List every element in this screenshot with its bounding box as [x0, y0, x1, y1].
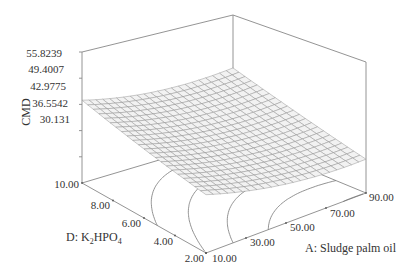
d-tick-mark: [143, 217, 145, 219]
d-tick-mark: [81, 182, 83, 184]
z-tick-label: 55.8239: [26, 47, 62, 59]
contour-line: [343, 194, 363, 202]
d-tick-label: 2.00: [185, 252, 205, 264]
a-tick-mark: [285, 222, 287, 224]
a-tick-label: 30.00: [250, 236, 275, 248]
z-tick-label: 42.9775: [30, 80, 66, 92]
top-edge-back-d: [233, 15, 366, 62]
a-tick-label: 10.00: [212, 252, 237, 264]
z-axis-title: CMD: [19, 98, 33, 126]
a-tick-label: 90.00: [369, 191, 394, 203]
d-tick-label: 8.00: [91, 199, 111, 211]
top-edge-back-a: [82, 15, 233, 52]
d-tick-label: 6.00: [122, 217, 142, 229]
a-tick-label: 70.00: [330, 207, 355, 219]
a-tick-mark: [245, 237, 247, 239]
a-tick-mark: [325, 207, 327, 209]
d-tick-mark: [174, 235, 176, 237]
d-tick-label: 4.00: [154, 235, 174, 247]
d-axis-title: D: K2HPO4: [66, 230, 122, 246]
d-tick-mark: [112, 200, 114, 202]
a-axis-title: A: Sludge palm oil: [305, 241, 397, 255]
a-tick-label: 50.00: [290, 221, 315, 233]
z-tick-label: 36.5542: [32, 97, 68, 109]
d-axis-ticks: 10.00 8.00 6.00 4.00 2.00: [54, 178, 204, 264]
a-tick-mark: [205, 252, 207, 254]
z-tick-label: 49.4007: [28, 63, 64, 75]
surface-plot: 55.8239 49.4007 42.9775 36.5542 30.131 C…: [0, 0, 409, 279]
d-tick-label: 10.00: [54, 178, 79, 190]
z-tick-label: 30.131: [40, 113, 70, 125]
a-tick-mark: [365, 192, 367, 194]
